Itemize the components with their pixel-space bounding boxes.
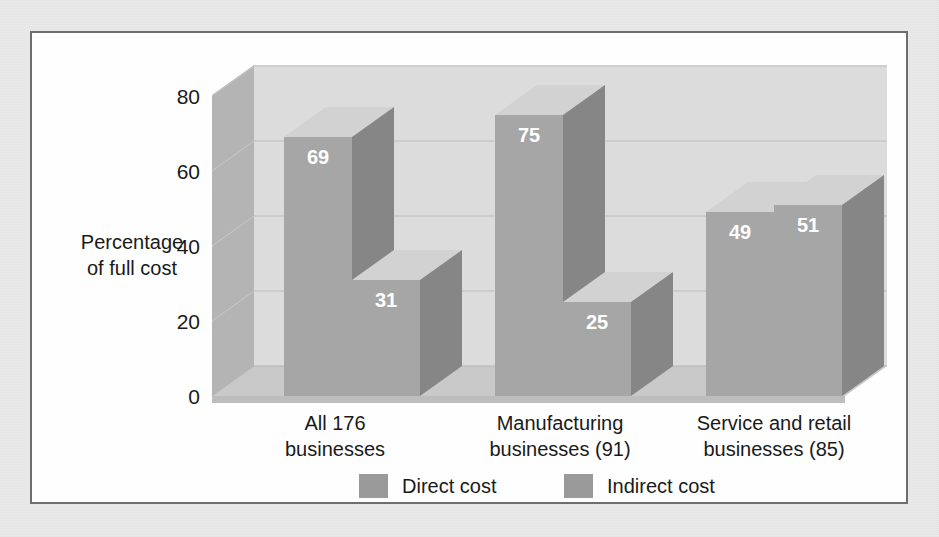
category-label-0-line2: businesses — [285, 438, 385, 460]
legend-item-indirect-cost[interactable]: Indirect cost — [564, 474, 715, 498]
legend-swatch-indirect-cost — [564, 474, 593, 498]
bar-group-0-indirect[interactable]: 31 — [352, 250, 462, 396]
bar-chart-3d: 80 60 40 20 0 Percentage of full cost 69 — [32, 33, 906, 502]
legend-label-direct-cost: Direct cost — [402, 475, 497, 497]
legend-swatch-direct-cost — [359, 474, 388, 498]
bar-value-label: 51 — [797, 214, 819, 236]
category-label-1-line1: Manufacturing — [497, 412, 624, 434]
category-label-1-line2: businesses (91) — [489, 438, 630, 460]
category-label-0-line1: All 176 — [304, 412, 365, 434]
y-axis-title: Percentage of full cost — [81, 231, 183, 279]
y-tick-80: 80 — [177, 85, 200, 108]
x-axis-category-labels: All 176 businesses Manufacturing busines… — [285, 412, 851, 460]
category-label-2-line2: businesses (85) — [703, 438, 844, 460]
bar-value-label: 31 — [375, 289, 397, 311]
bar-value-label: 25 — [586, 311, 608, 333]
chart-floor-front-lip — [212, 396, 845, 403]
chart-page: 80 60 40 20 0 Percentage of full cost 69 — [0, 0, 939, 537]
legend-label-indirect-cost: Indirect cost — [607, 475, 715, 497]
y-tick-0: 0 — [188, 385, 200, 408]
bar-value-label: 49 — [729, 221, 751, 243]
chart-legend: Direct cost Indirect cost — [359, 474, 715, 498]
bar-group-1-indirect[interactable]: 25 — [563, 272, 673, 396]
y-axis-title-line1: Percentage — [81, 231, 183, 253]
bar-value-label: 69 — [307, 146, 329, 168]
chart-frame: 80 60 40 20 0 Percentage of full cost 69 — [30, 31, 908, 504]
category-label-2-line1: Service and retail — [697, 412, 852, 434]
bar-group-2-indirect[interactable]: 51 — [774, 175, 884, 396]
y-tick-20: 20 — [177, 310, 200, 333]
legend-item-direct-cost[interactable]: Direct cost — [359, 474, 497, 498]
y-tick-60: 60 — [177, 160, 200, 183]
bar-front-face — [284, 137, 352, 396]
y-axis-title-line2: of full cost — [87, 257, 177, 279]
bar-value-label: 75 — [518, 124, 540, 146]
bar-front-face — [495, 115, 563, 396]
bar-side-face — [842, 175, 884, 396]
